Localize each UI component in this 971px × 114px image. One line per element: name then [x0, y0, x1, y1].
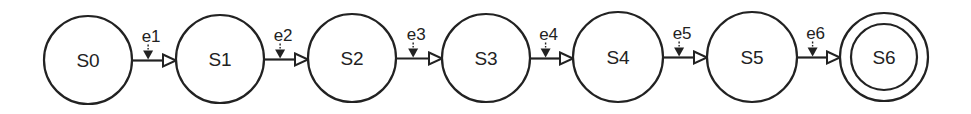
- arrowhead-icon: [560, 53, 573, 65]
- transition-s4-s5: e5: [663, 24, 707, 64]
- state-node-s5: S5: [707, 12, 797, 102]
- states: S0S1S2S3S4S5S6: [44, 12, 928, 104]
- event-marker-icon: [275, 50, 285, 59]
- arrowhead-icon: [429, 53, 442, 65]
- event-label: e3: [407, 25, 426, 44]
- event-marker-icon: [408, 49, 418, 58]
- arrowhead-icon: [694, 52, 707, 64]
- event-marker-icon: [808, 48, 818, 57]
- transition-s2-s3: e3: [396, 25, 442, 65]
- state-label: S1: [208, 49, 231, 70]
- event-label: e2: [274, 26, 293, 45]
- event-label: e5: [673, 24, 692, 43]
- event-label: e1: [142, 27, 161, 46]
- state-label: S4: [606, 47, 630, 68]
- state-label: S6: [872, 47, 895, 68]
- state-label: S5: [740, 47, 763, 68]
- state-diagram: e1e2e3e4e5e6 S0S1S2S3S4S5S6: [0, 0, 971, 114]
- arrowhead-icon: [295, 54, 308, 66]
- event-marker-icon: [541, 49, 551, 58]
- state-diagram-svg: e1e2e3e4e5e6 S0S1S2S3S4S5S6: [0, 0, 971, 114]
- transition-s3-s4: e4: [530, 25, 573, 65]
- state-label: S3: [474, 48, 497, 69]
- event-marker-icon: [674, 48, 684, 57]
- state-node-s4: S4: [573, 12, 663, 102]
- state-node-s0: S0: [44, 16, 132, 104]
- event-label: e6: [806, 24, 825, 43]
- state-label: S0: [76, 50, 99, 71]
- state-label: S2: [340, 48, 363, 69]
- state-node-s1: S1: [176, 15, 264, 103]
- event-marker-icon: [143, 51, 153, 60]
- transition-s5-s6: e6: [797, 24, 840, 64]
- transition-s0-s1: e1: [132, 27, 176, 67]
- transition-s1-s2: e2: [264, 26, 308, 66]
- event-label: e4: [539, 25, 558, 44]
- state-node-s3: S3: [442, 14, 530, 102]
- arrowhead-icon: [827, 52, 840, 64]
- state-node-s6: S6: [840, 13, 928, 101]
- arrowhead-icon: [163, 55, 176, 67]
- state-node-s2: S2: [308, 14, 396, 102]
